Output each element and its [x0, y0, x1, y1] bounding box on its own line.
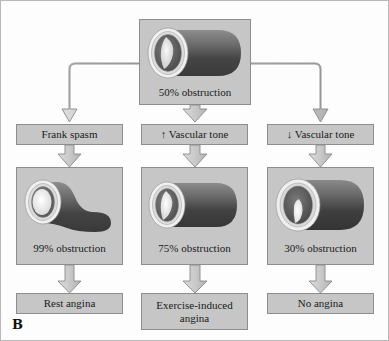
vessel-caption-99: 99% obstruction [17, 242, 122, 255]
root-vessel-box: 50% obstruction [139, 19, 251, 105]
outcome-box-rest-angina[interactable]: Rest angina [16, 293, 123, 314]
vessel-box-99: 99% obstruction [16, 167, 123, 265]
connector-branch-to-vessel-3 [309, 145, 332, 167]
branch-label-3: ↓ Vascular tone [287, 128, 355, 141]
connector-branch-to-vessel-1 [58, 145, 81, 167]
root-vessel-caption: 50% obstruction [140, 86, 250, 99]
branch-label-1: Frank spasm [42, 128, 98, 141]
branch-box-frank-spasm[interactable]: Frank spasm [16, 124, 123, 145]
connector-branch-to-vessel-2 [183, 145, 207, 167]
panel-label: B [12, 317, 23, 332]
vessel-box-30: 30% obstruction [267, 167, 374, 265]
vessel-caption-75: 75% obstruction [142, 242, 247, 255]
connector-left-elbow [62, 63, 139, 122]
branch-box-decreased-vascular-tone[interactable]: ↓ Vascular tone [267, 124, 374, 145]
branch-label-2: ↑ Vascular tone [161, 128, 229, 141]
vessel-illustration-30 [268, 172, 375, 238]
branch-box-increased-vascular-tone[interactable]: ↑ Vascular tone [141, 124, 248, 145]
connector-vessel-to-outcome-3 [309, 265, 332, 293]
outcome-box-no-angina[interactable]: No angina [267, 293, 374, 314]
vessel-box-75: 75% obstruction [141, 167, 248, 265]
vessel-illustration-99-spasm [17, 172, 124, 238]
vessel-caption-30: 30% obstruction [268, 242, 373, 255]
connector-center-top [183, 105, 207, 122]
vessel-illustration-75 [142, 172, 249, 238]
outcome-label-2: Exercise-induced angina [156, 299, 232, 325]
outcome-label-1: Rest angina [44, 297, 96, 310]
connector-vessel-to-outcome-1 [58, 265, 81, 293]
connector-vessel-to-outcome-2 [183, 265, 207, 293]
outcome-box-exercise-induced-angina[interactable]: Exercise-induced angina [141, 293, 248, 330]
connector-right-elbow [251, 63, 328, 122]
outcome-label-3: No angina [298, 297, 344, 310]
figure-frame: 50% obstruction Frank spasm ↑ Vascular t… [0, 0, 389, 341]
vessel-illustration-50 [140, 22, 252, 84]
